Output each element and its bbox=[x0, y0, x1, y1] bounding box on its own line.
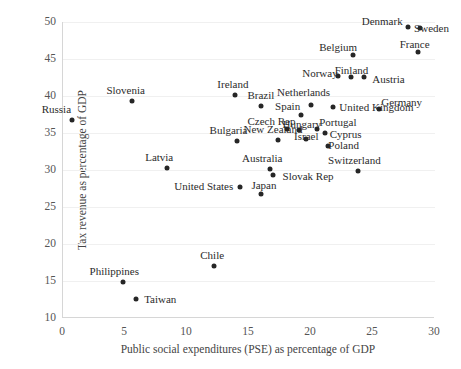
scatter-chart: Tax revenue as percentage of GDP RussiaS… bbox=[0, 0, 461, 369]
y-axis-tick-label: 35 bbox=[22, 127, 56, 139]
y-axis-tick-label: 40 bbox=[22, 90, 56, 102]
x-axis-tick-label: 20 bbox=[304, 326, 316, 338]
axis-tick-layer: 101520253035404550051015202530 bbox=[0, 0, 461, 369]
x-axis-tick-label: 0 bbox=[59, 326, 65, 338]
x-axis-tick-label: 10 bbox=[180, 326, 192, 338]
x-axis-tick-label: 15 bbox=[242, 326, 254, 338]
x-axis-tick-label: 30 bbox=[428, 326, 440, 338]
x-axis-tick-label: 5 bbox=[121, 326, 127, 338]
y-axis-tick-label: 20 bbox=[22, 238, 56, 250]
y-axis-tick-label: 50 bbox=[22, 16, 56, 28]
y-axis-tick-label: 45 bbox=[22, 53, 56, 65]
y-axis-tick-label: 10 bbox=[22, 312, 56, 324]
y-axis-tick-label: 15 bbox=[22, 275, 56, 287]
y-axis-tick-label: 30 bbox=[22, 164, 56, 176]
y-axis-tick-label: 25 bbox=[22, 201, 56, 213]
x-axis-tick-label: 25 bbox=[366, 326, 378, 338]
x-axis-title: Public social expenditures (PSE) as perc… bbox=[62, 343, 434, 355]
